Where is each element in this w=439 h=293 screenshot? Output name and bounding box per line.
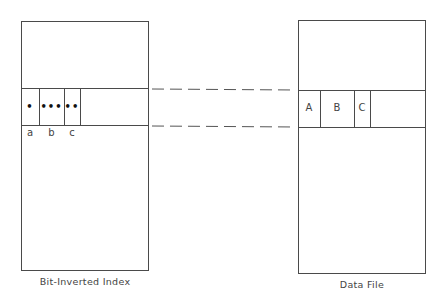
data-file-box xyxy=(298,20,426,274)
index-cell-b-label: b xyxy=(39,127,64,138)
index-cell-b-bits: ••• xyxy=(39,102,64,112)
data-record-b: B xyxy=(320,102,354,113)
index-cell-c-label: c xyxy=(64,127,80,138)
data-cell-divider xyxy=(370,90,371,128)
index-cell-a-bits: • xyxy=(21,102,39,112)
data-record-c: C xyxy=(354,102,370,113)
bit-inverted-index-title: Bit-Inverted Index xyxy=(21,276,149,287)
bottom-dashed-connector xyxy=(152,126,296,127)
data-file-title: Data File xyxy=(298,279,426,290)
index-cell-c-bits: •• xyxy=(64,102,80,112)
index-cell-divider xyxy=(80,88,81,126)
top-dashed-connector xyxy=(152,89,296,90)
data-record-a: A xyxy=(298,102,320,113)
bit-inverted-index-box xyxy=(21,21,149,271)
index-cell-a-label: a xyxy=(21,127,39,138)
